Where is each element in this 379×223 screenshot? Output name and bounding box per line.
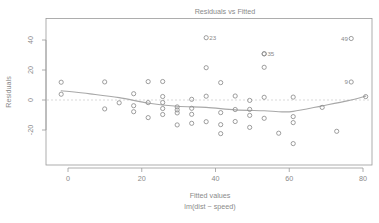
y-tick-label: 20 bbox=[26, 66, 35, 74]
data-point bbox=[204, 66, 208, 70]
data-point bbox=[248, 125, 252, 129]
chart-title: Residuals vs Fitted bbox=[195, 7, 256, 16]
data-point bbox=[190, 121, 194, 125]
x-tick-group: 020406080 bbox=[66, 168, 367, 183]
data-point bbox=[233, 119, 237, 123]
labeled-data-point bbox=[349, 36, 353, 40]
data-point bbox=[291, 121, 295, 125]
data-point bbox=[277, 131, 281, 135]
x-tick-label: 80 bbox=[359, 174, 367, 183]
point-labels: 2335499 bbox=[204, 34, 353, 85]
data-point bbox=[248, 113, 252, 117]
data-point bbox=[59, 92, 63, 96]
data-point bbox=[161, 94, 165, 98]
y-tick-label: -20 bbox=[26, 125, 35, 135]
x-tick-label: 0 bbox=[66, 174, 70, 183]
data-point bbox=[219, 111, 223, 115]
data-point bbox=[161, 79, 165, 83]
data-point bbox=[161, 100, 165, 104]
data-point bbox=[146, 116, 150, 120]
x-tick-label: 60 bbox=[285, 174, 293, 183]
outlier-label: 35 bbox=[267, 50, 274, 57]
data-point bbox=[190, 112, 194, 116]
data-point bbox=[161, 106, 165, 110]
labeled-data-point bbox=[262, 52, 266, 56]
data-point bbox=[146, 80, 150, 84]
data-point bbox=[175, 123, 179, 127]
x-tick-label: 20 bbox=[138, 174, 146, 183]
data-point bbox=[248, 98, 252, 102]
data-point bbox=[204, 120, 208, 124]
labeled-data-point bbox=[349, 80, 353, 84]
data-point bbox=[219, 123, 223, 127]
outlier-label: 49 bbox=[341, 35, 348, 42]
data-point bbox=[291, 142, 295, 146]
y-tick-label: 40 bbox=[26, 36, 35, 44]
data-point bbox=[132, 92, 136, 96]
x-axis-title: Fitted values bbox=[190, 191, 231, 200]
data-point bbox=[103, 80, 107, 84]
scatter-points bbox=[59, 52, 368, 146]
data-point bbox=[190, 97, 194, 101]
labeled-data-point bbox=[204, 36, 208, 40]
x-axis-subtitle: lm(dist ~ speed) bbox=[184, 202, 235, 211]
data-point bbox=[291, 115, 295, 119]
y-tick-group: 40200-20 bbox=[26, 36, 46, 135]
data-point bbox=[117, 101, 121, 105]
data-point bbox=[161, 112, 165, 116]
outlier-label: 23 bbox=[209, 34, 216, 41]
plot-canvas: Residuals vs Fitted 40200-20 020406080 2… bbox=[0, 0, 379, 223]
outlier-label: 9 bbox=[345, 78, 349, 85]
y-axis: 40200-20 bbox=[26, 36, 46, 135]
data-point bbox=[219, 81, 223, 85]
data-point bbox=[132, 104, 136, 108]
x-axis: 020406080 bbox=[66, 168, 367, 183]
data-point bbox=[103, 107, 107, 111]
data-point bbox=[59, 80, 63, 84]
data-point bbox=[233, 94, 237, 98]
data-point bbox=[262, 116, 266, 120]
data-point bbox=[335, 129, 339, 133]
y-tick-label: 0 bbox=[26, 98, 35, 102]
data-point bbox=[219, 132, 223, 136]
data-point bbox=[132, 110, 136, 114]
y-axis-title: Residuals bbox=[4, 76, 13, 108]
residuals-vs-fitted-plot: Residuals vs Fitted 40200-20 020406080 2… bbox=[0, 0, 379, 223]
data-point bbox=[291, 95, 295, 99]
x-tick-label: 40 bbox=[212, 174, 220, 183]
data-point bbox=[262, 95, 266, 99]
data-point bbox=[262, 65, 266, 69]
data-point bbox=[204, 94, 208, 98]
